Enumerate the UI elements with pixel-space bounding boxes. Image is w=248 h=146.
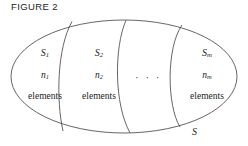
ellipsis-label: · · ·	[135, 71, 162, 83]
universal-set-label: S	[192, 126, 197, 137]
cell-label-group-m: Sm nm elements	[176, 48, 238, 102]
elements-word-2: elements	[68, 92, 130, 102]
set-label-m: Sm	[176, 48, 238, 59]
count-label-m: nm	[176, 71, 238, 81]
count-label-m-subscript: m	[207, 74, 212, 81]
cell-label-group-1: S1 n1 elements	[14, 48, 76, 102]
count-label-2: n2	[68, 71, 130, 81]
elements-word-1: elements	[14, 92, 76, 102]
set-label-2: S2	[68, 48, 130, 59]
cell-label-group-2: S2 n2 elements	[68, 48, 130, 102]
set-label-2-subscript: 2	[100, 51, 103, 58]
set-label-1-subscript: 1	[46, 51, 49, 58]
count-label-2-subscript: 2	[100, 74, 103, 81]
count-label-1-subscript: 1	[46, 74, 49, 81]
figure-container: FIGURE 2 S1 n1 elements S2 n2 elements ·…	[0, 0, 248, 146]
set-label-1: S1	[14, 48, 76, 59]
elements-word-m: elements	[176, 92, 238, 102]
count-label-1: n1	[14, 71, 76, 81]
set-label-m-subscript: m	[207, 51, 212, 58]
